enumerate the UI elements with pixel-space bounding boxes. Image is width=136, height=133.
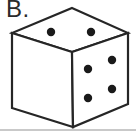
answer-option-b: B.: [0, 0, 136, 133]
die-pip-right: [108, 85, 116, 93]
die-cube-figure: [0, 0, 136, 133]
die-pip-top: [47, 28, 55, 36]
die-pip-right: [84, 94, 92, 102]
die-pip-top: [87, 28, 95, 36]
die-pip-right: [108, 56, 116, 64]
bottom-divider: [0, 129, 136, 131]
die-pip-right: [84, 65, 92, 73]
